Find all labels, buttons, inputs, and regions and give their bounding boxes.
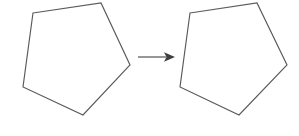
figure-canvas [0,0,299,136]
pentagon-transformation-figure [0,0,299,136]
left-pentagon-shape [23,3,130,115]
right-pentagon-shape [180,3,287,115]
